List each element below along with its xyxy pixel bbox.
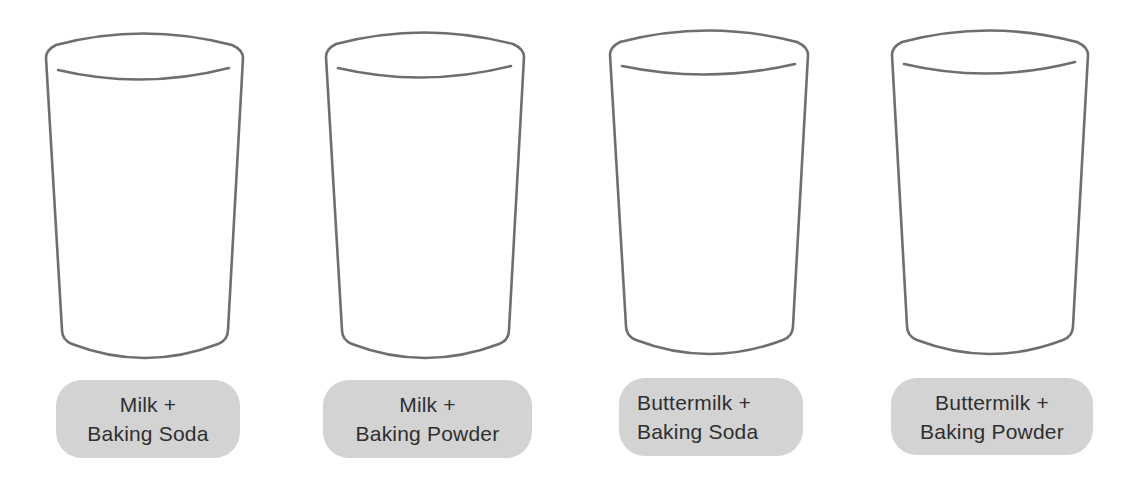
label-line-2: Baking Powder <box>356 419 500 448</box>
label-buttermilk-baking-powder: Buttermilk + Baking Powder <box>891 378 1093 455</box>
label-line-2: Baking Soda <box>87 419 208 448</box>
glass-icon <box>892 31 1088 355</box>
label-milk-baking-powder: Milk + Baking Powder <box>323 380 532 458</box>
label-line-1: Milk + <box>120 390 177 419</box>
label-line-1: Milk + <box>399 390 456 419</box>
glass-icon <box>610 31 808 355</box>
label-milk-baking-soda: Milk + Baking Soda <box>56 380 240 458</box>
label-line-1: Buttermilk + <box>935 388 1049 417</box>
glass-icon <box>46 34 243 359</box>
label-buttermilk-baking-soda: Buttermilk + Baking Soda <box>619 378 803 456</box>
glass-icon <box>326 33 524 359</box>
label-line-2: Baking Soda <box>637 417 758 446</box>
label-line-1: Buttermilk + <box>637 388 751 417</box>
label-line-2: Baking Powder <box>920 417 1064 446</box>
